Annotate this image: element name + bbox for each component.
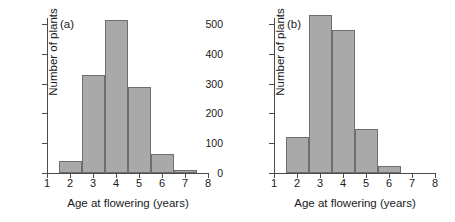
x-tick-label: 2 (287, 178, 307, 189)
x-tick-label: 1 (264, 178, 284, 189)
bar (82, 75, 105, 173)
bar (355, 129, 378, 173)
y-tick (42, 143, 47, 144)
x-tick-label: 5 (356, 178, 376, 189)
bar (128, 87, 151, 173)
y-tick (269, 143, 274, 144)
x-tick-label: 6 (152, 178, 172, 189)
y-tick-label: 400 (183, 49, 223, 60)
bar (151, 154, 174, 173)
panel-b: (b) 010020030040050012345678 Number of p… (227, 0, 455, 222)
panel-b-x-axis-label: Age at flowering (years) (267, 197, 443, 209)
y-tick-label: 200 (183, 108, 223, 119)
x-tick-label: 2 (60, 178, 80, 189)
x-tick-label: 4 (106, 178, 126, 189)
x-tick-label: 7 (402, 178, 422, 189)
x-tick-label: 1 (37, 178, 57, 189)
bar (105, 20, 128, 173)
panel-b-y-axis-label: Number of plants (274, 0, 286, 107)
x-tick-label: 4 (333, 178, 353, 189)
x-tick-label: 5 (129, 178, 149, 189)
x-tick-label: 3 (83, 178, 103, 189)
y-tick-label: 100 (183, 138, 223, 149)
y-tick (42, 113, 47, 114)
panel-a-y-axis-label: Number of plants (47, 0, 59, 107)
x-tick-label: 3 (310, 178, 330, 189)
bar (59, 161, 82, 173)
bar (332, 30, 355, 173)
y-tick-label: 500 (183, 19, 223, 30)
x-tick-label: 8 (425, 178, 445, 189)
panel-a-x-axis-label: Age at flowering (years) (40, 197, 216, 209)
y-tick-label: 300 (183, 79, 223, 90)
bar (286, 137, 309, 173)
panel-b-plot-area (274, 18, 435, 173)
bar (309, 15, 332, 173)
y-tick-label: 0 (183, 168, 223, 179)
x-tick-label: 6 (379, 178, 399, 189)
panel-a-plot-area (47, 18, 208, 173)
bar (378, 166, 401, 173)
x-tick-label: 8 (198, 178, 218, 189)
y-tick (269, 113, 274, 114)
x-tick-label: 7 (175, 178, 195, 189)
figure-canvas: (a) 010020030040050012345678 Number of p… (0, 0, 455, 222)
